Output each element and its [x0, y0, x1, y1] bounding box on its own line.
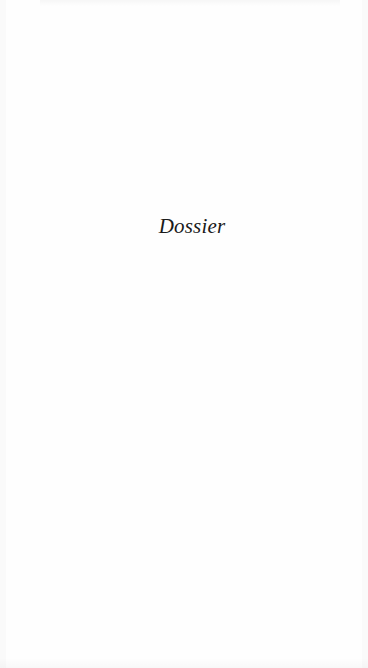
bleed-through-artifact-bottom [0, 658, 368, 668]
page-edge-left [0, 0, 6, 668]
half-title: Dossier [8, 214, 368, 239]
page-edge-right [362, 0, 368, 668]
bleed-through-artifact-top [40, 0, 340, 6]
book-page: Dossier [0, 0, 368, 668]
